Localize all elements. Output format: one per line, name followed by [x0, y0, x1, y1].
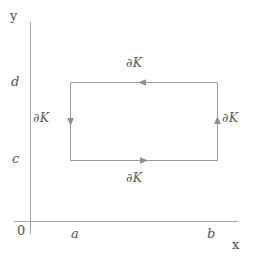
boundary-label-top: ∂K — [126, 57, 142, 70]
x-tick-label-a: a — [71, 227, 79, 240]
origin-label: 0 — [17, 224, 25, 237]
y-axis-label: y — [10, 9, 17, 22]
figure-canvas — [0, 0, 258, 265]
boundary-rectangle-figure: y x 0 d c a b ∂K ∂K ∂K ∂K — [0, 0, 258, 265]
arrow-left-down — [67, 118, 74, 126]
y-tick-label-d: d — [11, 75, 19, 88]
arrow-bottom-right — [140, 157, 148, 164]
y-tick-label-c: c — [12, 152, 19, 165]
arrow-top-left — [138, 79, 146, 86]
x-tick-label-b: b — [207, 227, 215, 240]
boundary-label-left: ∂K — [33, 112, 49, 125]
x-axis-label: x — [232, 238, 239, 251]
boundary-label-right: ∂K — [222, 112, 238, 125]
boundary-label-bottom: ∂K — [126, 172, 142, 185]
arrow-right-up — [214, 116, 221, 124]
